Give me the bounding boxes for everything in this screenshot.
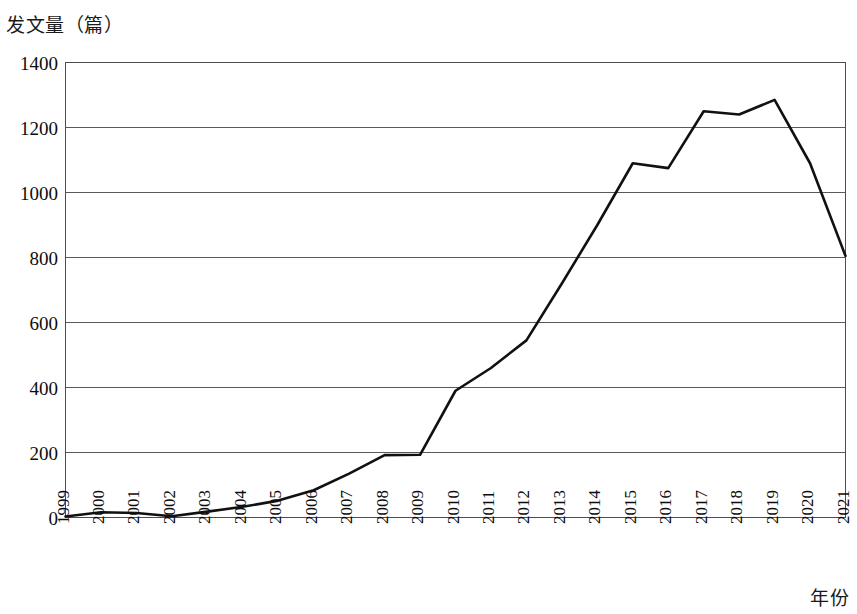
plot-border (66, 63, 846, 518)
gridlines (66, 63, 846, 518)
line-chart: 发文量（篇） 0200400600800100012001400 1999200… (0, 0, 857, 614)
plot-area (0, 0, 857, 614)
x-axis-label: 年份 (810, 583, 849, 610)
data-series-line (66, 100, 846, 517)
